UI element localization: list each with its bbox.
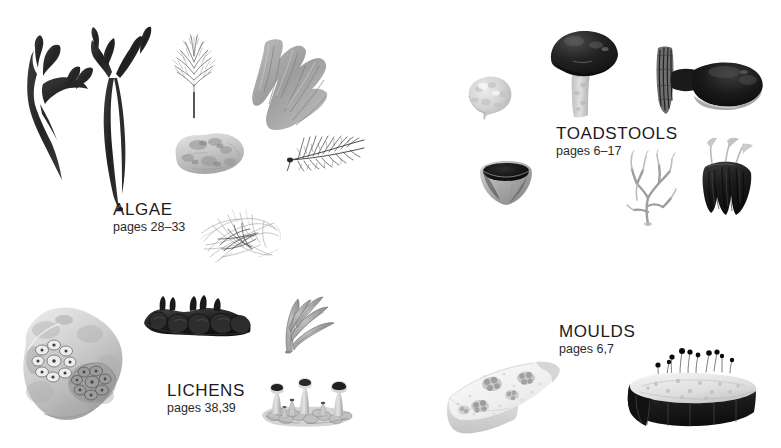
group-label-toadstools: TOADSTOOLS pages 6–17 xyxy=(556,124,678,159)
group-title-moulds: MOULDS xyxy=(559,322,635,341)
specimen-tangled-filament-alga-mass xyxy=(198,205,282,265)
specimen-feathery-red-alga-bush xyxy=(163,32,225,120)
specimen-trumpet-cup-lichens xyxy=(258,378,362,432)
specimen-fan-blade-seaweed xyxy=(248,36,334,132)
specimen-dark-clustered-fungus-group xyxy=(695,137,761,219)
specimen-mouldy-bread-wedge xyxy=(444,358,570,438)
group-pages-algae: pages 28–33 xyxy=(113,220,185,235)
group-label-algae: ALGAE pages 28–33 xyxy=(113,200,185,235)
specimen-dark-capped-mushroom xyxy=(546,27,622,119)
specimen-grey-strap-branching-lichen xyxy=(278,292,336,354)
group-label-moulds: MOULDS pages 6,7 xyxy=(559,322,635,357)
group-pages-moulds: pages 6,7 xyxy=(559,342,635,357)
specimen-dark-feather-alga-tuft xyxy=(284,126,368,172)
group-title-algae: ALGAE xyxy=(113,200,185,219)
specimen-encrusting-coralline-rock xyxy=(168,128,250,178)
lichen-patch-granular xyxy=(68,363,116,403)
group-title-lichens: LICHENS xyxy=(167,381,245,400)
specimen-pale-puffball xyxy=(462,74,518,122)
group-label-lichens: LICHENS pages 38,39 xyxy=(167,381,245,416)
specimen-dark-foliose-lichen-mass xyxy=(140,289,256,341)
specimen-pale-coral-fungus xyxy=(624,150,678,226)
group-title-toadstools: TOADSTOOLS xyxy=(556,124,678,143)
specimen-dark-branching-seaweed-tall xyxy=(84,26,160,212)
specimen-cup-fungus xyxy=(476,160,536,208)
contents-spread: ALGAE pages 28–33 xyxy=(0,0,781,448)
specimen-bracket-fungus-on-bark xyxy=(648,40,770,120)
specimen-pin-mould-bread-slice xyxy=(620,336,768,438)
specimen-lichen-covered-boulder xyxy=(12,300,130,426)
group-pages-lichens: pages 38,39 xyxy=(167,401,245,416)
lichen-patch-rosette xyxy=(32,340,76,382)
group-pages-toadstools: pages 6–17 xyxy=(556,144,678,159)
